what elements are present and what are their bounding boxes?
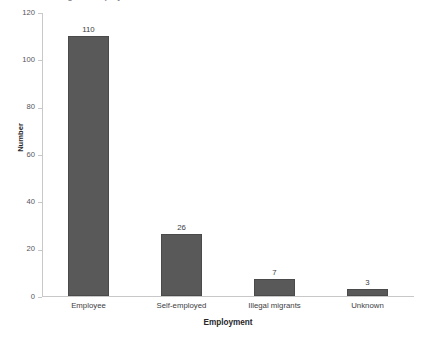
y-axis-title: Number <box>16 118 25 158</box>
bar[interactable]: 110Employee <box>68 36 109 296</box>
y-tick-mark <box>38 108 42 109</box>
x-axis-line <box>42 296 414 297</box>
x-axis-title: Employment <box>42 318 414 327</box>
y-axis-line <box>42 13 43 297</box>
x-tick-label: Illegal migrants <box>248 301 300 310</box>
y-tick-mark <box>38 155 42 156</box>
x-tick-label: Employee <box>71 301 106 310</box>
plot-area: 020406080100120 110Employee26Self-employ… <box>42 13 414 297</box>
bar-value-label: 7 <box>272 268 276 277</box>
y-tick-label: 80 <box>27 102 35 111</box>
y-tick-mark <box>38 60 42 61</box>
x-tick-label: Self-employed <box>157 301 207 310</box>
bar-value-label: 3 <box>365 278 369 287</box>
y-tick-mark <box>38 13 42 14</box>
y-tick-mark <box>38 297 42 298</box>
y-tick-mark <box>38 202 42 203</box>
y-tick-label: 100 <box>22 55 35 64</box>
y-tick-label: 0 <box>31 292 35 301</box>
bar-chart-figure: Figure: Employment status 02040608010012… <box>0 0 431 338</box>
y-tick-label: 40 <box>27 197 35 206</box>
bar[interactable]: 26Self-employed <box>161 234 202 296</box>
y-tick-label: 120 <box>22 8 35 17</box>
y-tick-mark <box>38 250 42 251</box>
x-tick-label: Unknown <box>351 301 384 310</box>
chart-title-fragment: Figure: Employment status <box>60 0 320 3</box>
y-tick-label: 20 <box>27 244 35 253</box>
bar[interactable]: 3Unknown <box>347 289 388 296</box>
bar-value-label: 26 <box>177 223 186 232</box>
bar-value-label: 110 <box>82 25 94 34</box>
bar[interactable]: 7Illegal migrants <box>254 279 295 296</box>
y-tick-label: 60 <box>27 150 35 159</box>
